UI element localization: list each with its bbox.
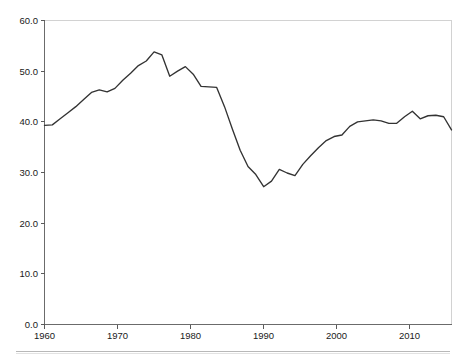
x-tick-label-2010: 2010 — [399, 330, 420, 341]
chart-figure: 60.0 50.0 40.0 30.0 20.0 10.0 0.0 1960 1… — [0, 0, 466, 361]
data-series-group — [45, 52, 452, 187]
y-tick-label-10: 10.0 — [20, 268, 39, 279]
y-tick-label-50: 50.0 — [20, 66, 39, 77]
data-line-series-1 — [45, 52, 452, 187]
x-axis-ticks: 1960 1970 1980 1990 2000 2010 — [34, 325, 420, 342]
x-tick-label-1990: 1990 — [253, 330, 274, 341]
y-tick-label-0: 0.0 — [25, 319, 38, 330]
y-axis-ticks: 60.0 50.0 40.0 30.0 20.0 10.0 0.0 — [20, 15, 45, 330]
y-tick-label-20: 20.0 — [20, 218, 39, 229]
x-tick-label-2000: 2000 — [326, 330, 347, 341]
x-tick-label-1970: 1970 — [107, 330, 128, 341]
y-tick-label-30: 30.0 — [20, 167, 39, 178]
plot-frame — [45, 21, 452, 325]
x-tick-label-1960: 1960 — [34, 330, 55, 341]
x-tick-label-1980: 1980 — [180, 330, 201, 341]
plot-axes — [45, 20, 452, 325]
y-tick-label-40: 40.0 — [20, 116, 39, 127]
footer-rules — [16, 352, 450, 354]
line-chart-svg: 60.0 50.0 40.0 30.0 20.0 10.0 0.0 1960 1… — [0, 0, 466, 361]
y-tick-label-60: 60.0 — [20, 15, 39, 26]
